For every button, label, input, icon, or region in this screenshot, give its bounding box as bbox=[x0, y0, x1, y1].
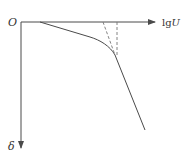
y-axis-label: δ bbox=[8, 140, 15, 153]
curve bbox=[40, 22, 145, 130]
diagram-canvas: O lgU δ bbox=[0, 0, 187, 165]
dashed-tangent-line bbox=[103, 22, 115, 55]
origin-label: O bbox=[8, 16, 17, 29]
x-axis-var: U bbox=[172, 17, 181, 28]
x-axis-label: lgU bbox=[162, 17, 181, 28]
